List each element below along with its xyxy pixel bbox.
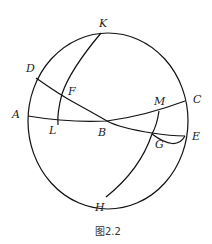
point-label-f: F — [67, 85, 76, 98]
point-label-b: B — [97, 126, 106, 139]
point-label-d: D — [25, 62, 35, 75]
point-label-h: H — [94, 201, 105, 214]
point-label-l: L — [48, 124, 56, 137]
point-label-e: E — [191, 130, 200, 143]
figure-caption: 图2.2 — [95, 226, 121, 237]
point-label-g: G — [155, 138, 164, 151]
point-label-k: K — [98, 17, 108, 30]
arc-b-e — [107, 121, 185, 136]
point-label-m: M — [153, 95, 166, 108]
sphere-diagram: K D F A L B M C G E H 图2.2 — [0, 0, 212, 244]
point-label-a: A — [11, 108, 20, 121]
point-label-c: C — [193, 93, 202, 106]
